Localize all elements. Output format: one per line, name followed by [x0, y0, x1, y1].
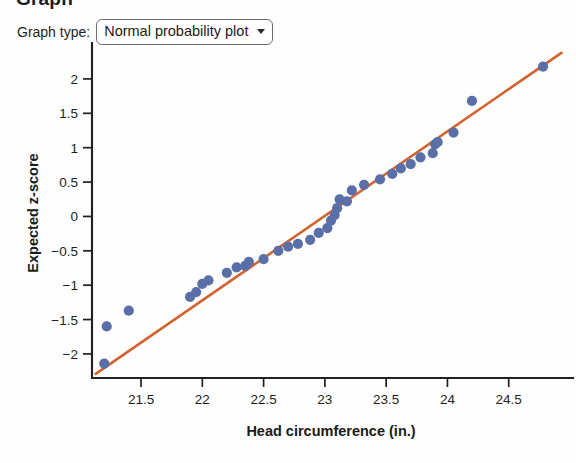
data-point: [448, 127, 458, 137]
data-point: [244, 257, 254, 267]
data-point: [347, 185, 357, 195]
y-tick-label: 1: [70, 141, 78, 156]
x-tick-label: 23: [317, 392, 332, 407]
data-point: [467, 96, 477, 106]
data-point: [538, 61, 548, 71]
data-point: [359, 180, 369, 190]
x-tick-label: 24: [440, 392, 456, 407]
data-point: [222, 268, 232, 278]
x-tick-label: 22: [195, 392, 210, 407]
data-point: [293, 239, 303, 249]
x-tick-label: 24.5: [496, 392, 522, 407]
reference-line: [96, 53, 562, 374]
data-point: [99, 358, 109, 368]
y-tick-label: −1.5: [51, 313, 78, 328]
y-tick-label: −0.5: [51, 244, 78, 259]
x-axis-title: Head circumference (in.): [246, 423, 415, 439]
data-point: [375, 174, 385, 184]
y-tick-label: 1.5: [59, 106, 78, 121]
x-tick-label: 22.5: [250, 392, 276, 407]
data-point: [406, 159, 416, 169]
data-point: [203, 275, 213, 285]
data-point: [396, 163, 406, 173]
data-point: [305, 235, 315, 245]
data-point: [314, 228, 324, 238]
data-point: [433, 137, 443, 147]
data-point: [124, 306, 134, 316]
data-point: [342, 196, 352, 206]
data-point: [102, 321, 112, 331]
normal-probability-plot-panel: Graph Graph type: Normal probability plo…: [0, 0, 576, 463]
chart-canvas: 21.52222.52323.52424.521.510.50−0.5−1−1.…: [0, 0, 576, 463]
x-tick-label: 21.5: [128, 392, 154, 407]
y-tick-label: 0.5: [59, 175, 78, 190]
y-tick-label: −2: [63, 347, 78, 362]
y-tick-label: −1: [63, 278, 78, 293]
data-point: [387, 169, 397, 179]
data-point: [258, 254, 268, 264]
data-point: [415, 152, 425, 162]
data-point: [283, 242, 293, 252]
y-axis-title: Expected z-score: [25, 153, 41, 272]
data-point: [273, 246, 283, 256]
data-point: [332, 203, 342, 213]
data-point: [428, 148, 438, 158]
data-point: [232, 262, 242, 272]
data-point: [191, 287, 201, 297]
y-tick-label: 0: [70, 209, 78, 224]
y-tick-label: 2: [70, 72, 78, 87]
x-tick-label: 23.5: [373, 392, 399, 407]
